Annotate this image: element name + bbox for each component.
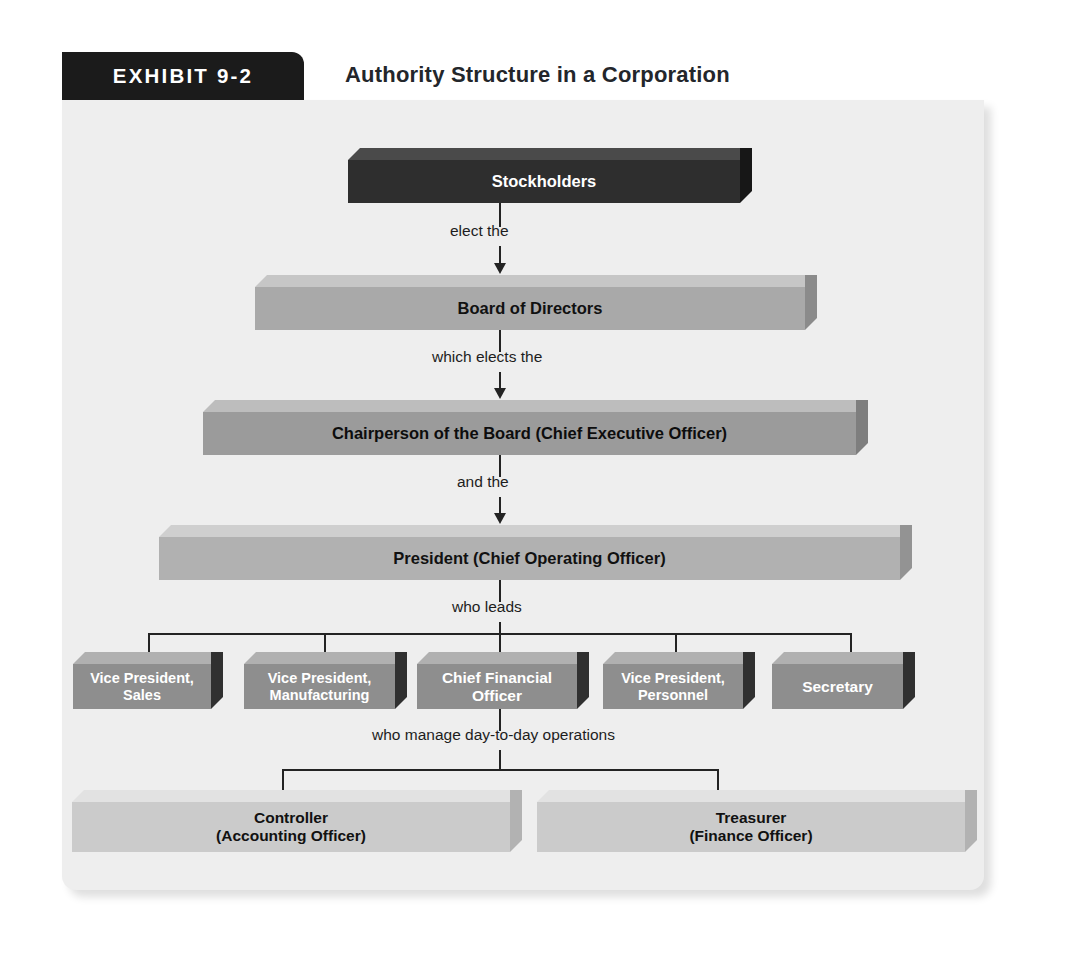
box-side-face	[903, 652, 915, 709]
node-treasurer: Treasurer (Finance Officer)	[537, 790, 977, 852]
connector-label-which-elects-the: which elects the	[432, 348, 542, 366]
node-vp-personnel-line2: Personnel	[638, 687, 708, 704]
diagram-card: Stockholders elect the Board of Director…	[62, 100, 984, 890]
connector-label-elect-the: elect the	[450, 222, 509, 240]
node-stockholders: Stockholders	[348, 148, 752, 203]
node-cfo-line2: Officer	[472, 687, 522, 705]
box-top-face	[772, 652, 915, 664]
node-board-of-directors-label: Board of Directors	[255, 287, 805, 330]
node-treasurer-label: Treasurer (Finance Officer)	[537, 802, 965, 852]
node-board-of-directors: Board of Directors	[255, 275, 817, 330]
node-vp-personnel-label: Vice President, Personnel	[603, 664, 743, 709]
node-president-label: President (Chief Operating Officer)	[159, 537, 900, 580]
node-vp-sales-label: Vice President, Sales	[73, 664, 211, 709]
node-secretary-label: Secretary	[772, 664, 903, 709]
node-cfo-label: Chief Financial Officer	[417, 664, 577, 709]
node-controller-line2: (Accounting Officer)	[216, 827, 366, 845]
node-vp-manufacturing: Vice President, Manufacturing	[244, 652, 407, 709]
box-top-face	[244, 652, 407, 664]
exhibit-number-tab: EXHIBIT 9-2	[62, 52, 304, 100]
node-vp-sales-line1: Vice President,	[90, 670, 194, 687]
box-top-face	[72, 790, 522, 802]
box-top-face	[603, 652, 755, 664]
node-cfo: Chief Financial Officer	[417, 652, 589, 709]
node-controller: Controller (Accounting Officer)	[72, 790, 522, 852]
node-controller-line1: Controller	[254, 809, 328, 827]
node-vp-manufacturing-label: Vice President, Manufacturing	[244, 664, 395, 709]
box-top-face	[255, 275, 817, 287]
connector-line-cfo-down-b	[499, 750, 501, 770]
box-top-face	[159, 525, 912, 537]
node-vp-manufacturing-line2: Manufacturing	[270, 687, 370, 704]
box-top-face	[417, 652, 589, 664]
node-stockholders-label: Stockholders	[348, 160, 740, 203]
node-controller-label: Controller (Accounting Officer)	[72, 802, 510, 852]
box-side-face	[900, 525, 912, 580]
arrow-board-chair	[494, 388, 506, 399]
node-vp-sales: Vice President, Sales	[73, 652, 223, 709]
connector-label-who-leads: who leads	[452, 598, 522, 616]
node-president: President (Chief Operating Officer)	[159, 525, 912, 580]
box-side-face	[805, 275, 817, 330]
box-side-face	[965, 790, 977, 852]
box-side-face	[856, 400, 868, 455]
connector-label-and-the: and the	[457, 473, 509, 491]
box-top-face	[537, 790, 977, 802]
box-side-face	[743, 652, 755, 709]
arrow-stockholders-board	[494, 263, 506, 274]
node-vp-personnel-line1: Vice President,	[621, 670, 725, 687]
node-secretary: Secretary	[772, 652, 915, 709]
arrow-chair-president	[494, 513, 506, 524]
connector-label-who-manage: who manage day-to-day operations	[372, 726, 615, 744]
box-side-face	[211, 652, 223, 709]
node-cfo-line1: Chief Financial	[442, 669, 552, 687]
node-chairperson-label: Chairperson of the Board (Chief Executiv…	[203, 412, 856, 455]
box-side-face	[577, 652, 589, 709]
box-side-face	[510, 790, 522, 852]
connector-bus-controller-treasurer	[282, 769, 719, 771]
node-treasurer-line2: (Finance Officer)	[689, 827, 812, 845]
node-vp-sales-line2: Sales	[123, 687, 161, 704]
node-vp-personnel: Vice President, Personnel	[603, 652, 755, 709]
node-secretary-line1: Secretary	[802, 678, 873, 696]
node-chairperson: Chairperson of the Board (Chief Executiv…	[203, 400, 868, 455]
box-side-face	[740, 148, 752, 203]
node-vp-manufacturing-line1: Vice President,	[268, 670, 372, 687]
exhibit-number-label: EXHIBIT 9-2	[113, 64, 253, 88]
exhibit-title: Authority Structure in a Corporation	[345, 62, 730, 88]
box-top-face	[203, 400, 868, 412]
box-side-face	[395, 652, 407, 709]
box-top-face	[348, 148, 752, 160]
node-treasurer-line1: Treasurer	[716, 809, 787, 827]
box-top-face	[73, 652, 223, 664]
